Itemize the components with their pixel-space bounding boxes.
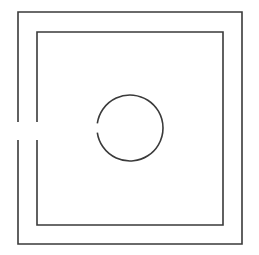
outer-square-wall bbox=[18, 12, 242, 244]
outer-square bbox=[18, 12, 242, 244]
inner-square-wall bbox=[37, 32, 223, 225]
diagram-canvas bbox=[0, 0, 259, 255]
inner-square bbox=[37, 32, 223, 225]
circle-arc bbox=[97, 95, 163, 161]
inner-circle bbox=[97, 95, 163, 161]
